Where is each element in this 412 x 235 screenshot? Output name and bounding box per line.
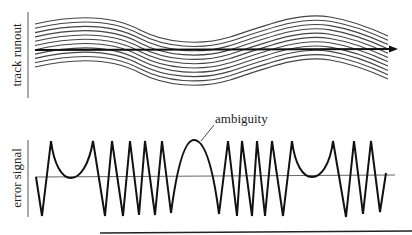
- track-following-diagram: track runout error signal ambiguity: [0, 0, 412, 235]
- track-line: [35, 33, 388, 59]
- track-line: [35, 29, 388, 55]
- track-line: [35, 24, 388, 50]
- track-line: [35, 20, 388, 46]
- ambiguity-label: ambiguity: [215, 111, 268, 126]
- bottom-rule: [100, 231, 412, 233]
- top-panel: track runout: [9, 12, 398, 98]
- track-line: [35, 16, 388, 42]
- ambiguity-leader-line: [201, 125, 214, 141]
- bottom-axis-label: error signal: [9, 148, 24, 208]
- bottom-panel: error signal ambiguity: [9, 111, 395, 217]
- scan-direction-arrow: [35, 46, 398, 53]
- top-axis-label: track runout: [9, 23, 24, 87]
- error-signal-waveform: [36, 140, 386, 217]
- zero-line: [35, 175, 395, 177]
